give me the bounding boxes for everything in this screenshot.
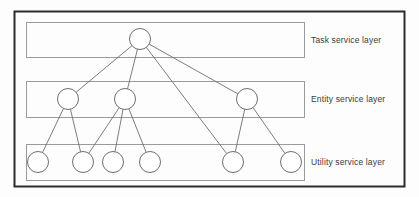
service-node-u1 — [28, 152, 49, 173]
service-node-u3 — [103, 152, 124, 173]
edge-e3-u6 — [253, 108, 285, 154]
service-node-e1 — [58, 89, 79, 110]
layer-box-task — [27, 23, 305, 58]
edge-e1-u1 — [43, 108, 64, 152]
service-node-u6 — [281, 152, 302, 173]
edge-e2-u3 — [115, 109, 123, 151]
service-layer-diagram: Task service layer Entity service layer … — [0, 0, 419, 197]
edge-e2-u4 — [129, 109, 146, 152]
layer-label-entity: Entity service layer — [311, 95, 385, 104]
edge-t1-e1 — [76, 46, 132, 93]
service-node-t1 — [130, 29, 151, 50]
edge-t1-u5 — [146, 47, 226, 153]
edge-e1-u2 — [70, 109, 80, 152]
layer-label-task: Task service layer — [311, 36, 381, 45]
edge-e3-u5 — [235, 109, 244, 152]
service-node-u4 — [140, 152, 161, 173]
service-node-u2 — [73, 152, 94, 173]
service-node-e2 — [115, 89, 136, 110]
edge-t1-e2 — [128, 49, 138, 89]
service-node-e3 — [237, 89, 258, 110]
edge-e2-u2 — [89, 108, 119, 154]
service-nodes — [28, 29, 302, 173]
layer-box-utility — [27, 145, 305, 181]
layer-label-utility: Utility service layer — [311, 158, 385, 167]
service-node-u5 — [223, 152, 244, 173]
